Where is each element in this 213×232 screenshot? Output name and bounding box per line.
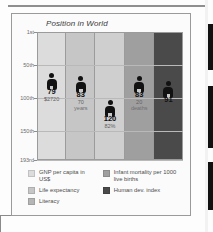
data-point-label: 91 (164, 96, 172, 104)
legend-column-left: GNP per capita in US$Life expectancyLite… (28, 169, 93, 205)
data-point-label: 79$2720 (44, 88, 59, 103)
data-point-rank: 79 (44, 88, 59, 96)
data-point-value: 82% (104, 123, 117, 130)
data-point-label: 8320deaths (131, 91, 148, 112)
person-head-icon (49, 73, 54, 78)
data-point-unit: years (74, 105, 87, 112)
data-point-rank: 91 (164, 96, 172, 104)
data-point-rank: 83 (131, 91, 148, 99)
data-point-rank: 83 (74, 91, 87, 99)
legend-swatch (103, 170, 110, 177)
legend-item: Literacy (28, 198, 93, 206)
legend-item: Human dev. index (103, 187, 180, 195)
page-edge-artifact-3 (208, 162, 213, 210)
legend-swatch (28, 187, 35, 194)
legend-label: Human dev. index (114, 187, 160, 194)
legend-swatch (28, 198, 35, 205)
top-divider-rule (8, 5, 205, 7)
data-point-label: 12082% (104, 115, 117, 130)
page-edge-artifact-1 (208, 24, 213, 70)
gridline (37, 65, 183, 66)
gridline (37, 160, 183, 161)
data-point-rank: 120 (104, 115, 117, 123)
category-band (95, 32, 124, 160)
legend-label: Life expectancy (39, 187, 79, 194)
y-axis-tick-label: 50th (12, 62, 34, 68)
legend-column-right: Infant mortality per 1000 live birthsHum… (103, 169, 180, 205)
legend: GNP per capita in US$Life expectancyLite… (28, 169, 180, 205)
data-point-unit: deaths (131, 105, 148, 112)
person-head-icon (108, 100, 113, 105)
page-edge-artifact-2 (208, 86, 213, 148)
legend-item: Infant mortality per 1000 live births (103, 169, 180, 183)
plot-area: 79$27208370years12082%8320deaths91 (37, 32, 183, 160)
legend-swatch (103, 187, 110, 194)
legend-label: GNP per capita in US$ (39, 169, 93, 183)
data-point-label: 8370years (74, 91, 87, 112)
page-background: Position in World 1st50th100th150th193rd… (0, 0, 213, 232)
legend-label: Literacy (39, 198, 59, 205)
person-head-icon (78, 76, 83, 81)
plot-bottom-border (37, 159, 183, 160)
person-head-icon (137, 76, 142, 81)
chart-card: Position in World 1st50th100th150th193rd… (11, 13, 191, 216)
data-point-value: $2720 (44, 96, 59, 103)
legend-label: Infant mortality per 1000 live births (114, 169, 180, 183)
legend-swatch (28, 170, 35, 177)
legend-item: Life expectancy (28, 187, 93, 195)
chart-title: Position in World (46, 19, 108, 28)
y-axis-line (37, 32, 38, 160)
person-head-icon (166, 81, 171, 86)
bottom-left-vertical-rule (0, 215, 1, 232)
y-axis-tick-label: 193rd (12, 157, 34, 163)
y-axis-tick-label: 100th (12, 95, 34, 101)
gridline (37, 131, 183, 132)
legend-item: GNP per capita in US$ (28, 169, 93, 183)
y-axis-tick-label: 1st (12, 29, 34, 35)
y-axis-tick-label: 150th (12, 128, 34, 134)
plot-top-border (37, 32, 183, 33)
